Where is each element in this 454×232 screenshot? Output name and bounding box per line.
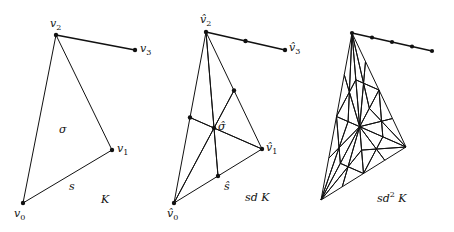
vertex-dot <box>260 147 264 151</box>
edge <box>190 118 214 129</box>
edge <box>218 149 262 176</box>
vertex-dot <box>172 201 176 205</box>
edge <box>364 62 366 84</box>
complex-K <box>21 33 137 205</box>
vertex-dot <box>350 31 354 35</box>
edge <box>362 150 364 173</box>
edge <box>174 118 190 204</box>
complex-sd-K <box>172 30 287 205</box>
edge <box>174 128 214 203</box>
edge <box>383 137 406 147</box>
vertex-dot <box>110 148 114 152</box>
vertex-dot <box>212 126 216 130</box>
vertex-label-v1-hat: v̂1 <box>266 142 277 156</box>
edge <box>385 147 406 160</box>
vertex-dot <box>21 201 25 205</box>
edge <box>337 75 345 117</box>
edge <box>366 62 380 91</box>
edge <box>23 35 56 203</box>
vertex-dot <box>204 30 208 34</box>
edge <box>369 108 381 121</box>
edge <box>337 117 349 122</box>
edge <box>349 80 355 92</box>
vertex-dot <box>188 115 192 119</box>
edge <box>340 163 348 166</box>
edge <box>174 176 218 203</box>
complex-sd2-K <box>321 31 434 200</box>
edge <box>56 35 135 50</box>
edge-label-s: s <box>69 181 75 192</box>
vertex-label-v2: v2 <box>50 18 61 32</box>
vertex-label-v0-hat: v̂0 <box>167 208 178 222</box>
edge <box>348 167 363 174</box>
vertex-label-v2-hat: v̂2 <box>200 14 211 28</box>
vertex-dot <box>133 48 137 52</box>
edge <box>348 92 349 122</box>
edge <box>214 128 218 176</box>
barycenter-label-s-hat: ŝ <box>224 181 230 192</box>
edge <box>321 148 339 200</box>
vertex-dot <box>370 35 374 39</box>
edge <box>360 121 382 126</box>
vertex-label-v3: v3 <box>140 43 151 57</box>
edge <box>340 127 359 164</box>
vertex-dot <box>430 49 434 53</box>
edge <box>369 90 379 108</box>
edge <box>376 147 406 149</box>
vertex-dot <box>283 48 287 52</box>
caption-sd-K: sd K <box>245 192 269 203</box>
edge <box>23 150 112 203</box>
edge <box>382 121 406 147</box>
edge <box>362 149 377 150</box>
edge <box>339 148 340 164</box>
edge <box>337 117 340 148</box>
vertex-label-v3-hat: v̂3 <box>289 42 300 56</box>
vertex-dot <box>390 40 394 44</box>
edge <box>321 167 348 200</box>
vertex-dot <box>232 88 236 92</box>
vertex-dot <box>410 44 414 48</box>
caption-sd2-K: sd2 K <box>377 191 407 204</box>
edge <box>376 149 384 160</box>
caption-K: K <box>101 194 109 205</box>
vertex-dot <box>216 174 220 178</box>
edge <box>393 119 407 148</box>
edge <box>382 121 383 137</box>
edge <box>360 127 362 150</box>
edge <box>364 83 370 108</box>
edge <box>190 32 206 118</box>
vertex-label-v0: v0 <box>14 208 25 222</box>
vertex-dot <box>243 39 247 43</box>
face-label-sigma: σ <box>59 124 67 135</box>
edge <box>376 137 382 149</box>
edge <box>344 75 349 92</box>
vertex-label-v1: v1 <box>117 143 128 157</box>
edge <box>234 91 262 150</box>
edge <box>382 119 393 122</box>
barycenter-label-sigma-hat: σ̂ <box>218 121 226 132</box>
edge <box>321 158 329 200</box>
vertex-dot <box>54 33 58 37</box>
